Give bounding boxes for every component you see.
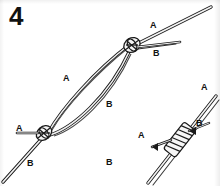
label-loop-strand-a: A [63, 74, 70, 83]
label-lower-knot-strand-b: B [27, 159, 34, 168]
label-upper-knot-strand-a: A [150, 21, 157, 30]
second-knot-coil [163, 122, 196, 158]
upper-knot [121, 35, 143, 56]
label-lower-knot-strand-a: A [16, 124, 23, 133]
second-knot-assembly [148, 96, 219, 185]
step-number: 4 [9, 3, 23, 29]
label-upper-knot-strand-b: B [153, 49, 160, 58]
rope-loop-bight [48, 45, 131, 136]
label-second-knot-strand-b: B [196, 119, 203, 128]
label-second-knot-strand-a-tail: A [201, 83, 208, 92]
label-loop-strand-b: B [106, 100, 113, 109]
label-second-knot-strand-b-tail: B [106, 158, 113, 167]
label-second-knot-strand-a: A [138, 131, 145, 140]
main-knot-assembly [3, 7, 211, 182]
knot-diagram-figure: 4 A B A B A B A B A B [0, 0, 220, 186]
